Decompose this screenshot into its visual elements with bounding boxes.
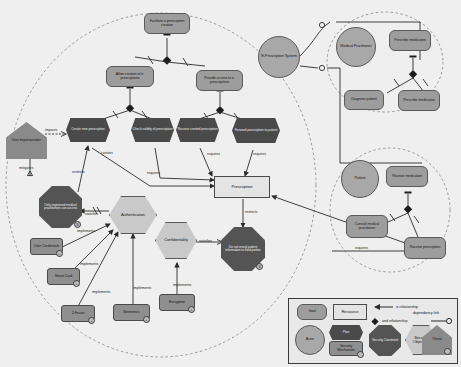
node-label: Check validity of prescription (131, 128, 173, 131)
legend-label: Threat (431, 338, 443, 342)
security-mechanism-badge: + (73, 280, 80, 287)
security-objective-authentication[interactable]: Authentication (109, 196, 157, 234)
edge-label-requires: requires (253, 152, 266, 156)
edge-label-requires: requires (207, 152, 220, 156)
edge-label-implements: implements (80, 262, 98, 266)
node-label: Authentication (120, 213, 146, 217)
node-label: Facilitate e-prescription creation (145, 20, 189, 27)
node-label: Biometrics (123, 311, 141, 315)
node-label: 2-Factor (71, 312, 86, 316)
security-constraint-badge: S (74, 221, 81, 228)
legend-label: Plan (342, 331, 350, 334)
security-mechanism-badge: + (56, 250, 63, 257)
node-label: Forward prescription to patient (234, 129, 279, 132)
legend-dependency-link-label: dependency link (413, 311, 439, 315)
goal-receive-medication[interactable]: Receive medication (386, 166, 428, 187)
node-label: Medical Practitioner (339, 45, 372, 49)
node-label: Only registered medical practitioners ca… (39, 204, 82, 211)
security-objective-confidentiality[interactable]: Confidentiality (155, 222, 197, 259)
legend-actor-shape: Actor (295, 325, 325, 355)
legend-plan-shape: Plan (329, 325, 363, 340)
legend-is-relationship-label: is relationship (396, 305, 418, 309)
edge-label-restricts: restricts (245, 210, 258, 214)
edge-label-implements: implements (77, 229, 95, 233)
legend-label: Actor (305, 338, 315, 342)
goal-provide-access[interactable]: Provide access to e-prescriptions (196, 70, 243, 91)
node-label: User Credentials (33, 245, 60, 249)
actor-medical-practitioner[interactable]: Medical Practitioner (336, 27, 376, 67)
legend-goal-shape: Goal (297, 304, 327, 320)
plan-receive-created-prescription[interactable]: Receive created prescription (176, 118, 219, 142)
node-label: E-Prescription System (260, 55, 297, 59)
security-mechanism-badge: + (143, 316, 150, 323)
edge-label-creates: creates (101, 151, 113, 155)
edge-label-implements: implements (92, 290, 110, 294)
legend-label: Goal (307, 310, 316, 314)
legend-and-relationship-label: and relationship (382, 319, 407, 323)
legend-threat-badge (444, 348, 451, 355)
node-label: Provide access to e-prescriptions (197, 77, 242, 84)
node-label: Prescribe medication (402, 99, 436, 103)
node-label: Patient (353, 177, 366, 181)
threat-user-impersonation[interactable]: User impersonation (6, 122, 47, 159)
resource-prescription[interactable]: Prescription (214, 176, 270, 198)
legend-security-constraint-shape: Security Constraint (369, 325, 401, 356)
node-label: User impersonation (11, 139, 42, 143)
plan-check-validity[interactable]: Check validity of prescription (131, 118, 174, 142)
node-label: Smart Card (54, 275, 73, 279)
node-label: Diagnose patient (350, 98, 377, 102)
node-label: Consult medical practitioner (347, 223, 387, 230)
node-label: Encryption (168, 301, 186, 305)
goal-prescribe-medication[interactable]: Prescribe medication (398, 90, 440, 111)
goal-consult-medical-practitioner[interactable]: Consult medical practitioner (346, 215, 388, 238)
edge-label-satisfies: satisfies (199, 239, 212, 243)
edge-label-implements: implements (133, 286, 151, 290)
legend-resource-shape: Resource (333, 304, 367, 320)
security-constraint-badge: S (256, 263, 263, 270)
node-label: Allow creation of e-prescriptions (107, 73, 153, 80)
legend-mechanism-badge (357, 351, 364, 358)
plan-forward-prescription[interactable]: Forward prescription to patient (232, 118, 280, 143)
edge-label-implements: implements (173, 283, 191, 287)
edge-label-impacts: impacts (45, 128, 57, 132)
legend-label: Resource (340, 310, 359, 314)
goal-prescribe-medication-top[interactable]: Prescribe medication (389, 30, 431, 51)
actor-patient[interactable]: Patient (341, 160, 379, 198)
node-label: Prescription (231, 185, 254, 189)
edge-label-mitigates: mitigates (19, 166, 33, 170)
goal-facilitate-eprescription-creation[interactable]: Facilitate e-prescription creation (144, 13, 190, 34)
actor-eprescription-system[interactable]: E-Prescription System (258, 36, 300, 78)
edge-label-restricts: restricts (72, 170, 85, 174)
goal-receive-prescription[interactable]: Receive prescription (404, 237, 446, 259)
node-label: Do not reveal patient information to thi… (221, 246, 265, 253)
node-label: Prescribe medication (393, 39, 427, 43)
edge-label-satisfies: satisfies (85, 212, 98, 216)
edge-label-requires: requires (147, 171, 160, 175)
plan-create-new-prescription[interactable]: Create new prescription (66, 118, 110, 142)
goal-allow-creation[interactable]: Allow creation of e-prescriptions (106, 66, 154, 87)
node-label: Receive prescription (409, 246, 442, 250)
diagram-canvas: Facilitate e-prescription creation Allow… (0, 0, 461, 367)
legend-panel: Goal Resource Actor Plan Security Mechan… (288, 298, 458, 364)
edge-label-requires: requires (355, 246, 368, 250)
security-mechanism-badge: + (88, 317, 95, 324)
node-label: Create new prescription (70, 128, 106, 131)
node-label: Receive created prescription (176, 128, 218, 131)
security-mechanism-badge: + (188, 306, 195, 313)
goal-diagnose-patient[interactable]: Diagnose patient (344, 90, 384, 110)
legend-label: Security Constraint (371, 339, 399, 342)
node-label: Receive medication (391, 175, 423, 179)
node-label: Confidentiality (163, 238, 189, 242)
